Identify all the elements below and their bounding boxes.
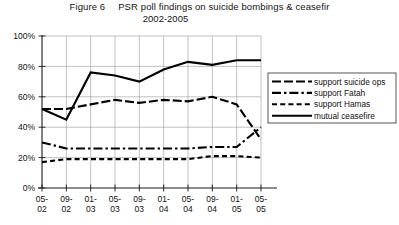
data-series-group: [42, 60, 261, 162]
figure-container: Figure 6PSR poll findings on suicide bom…: [0, 0, 399, 225]
x-axis-tick-label: 09-: [60, 194, 72, 204]
x-axis-tick-label: 01-: [231, 194, 243, 204]
x-axis-tick-label: 09-: [133, 194, 145, 204]
line-chart: 0%20%40%60%80%100% 05-0209-0201-0305-030…: [0, 0, 399, 225]
y-axis-tick-label: 40%: [18, 122, 35, 132]
chart-legend: support suicide opssupport Fatahsupport …: [268, 73, 396, 123]
x-axis-tick-label: 05-: [255, 194, 267, 204]
x-axis-tick-label: 03: [86, 204, 96, 214]
x-axis-tick-label: 02: [37, 204, 47, 214]
x-axis-tick-label: 05: [256, 204, 266, 214]
x-axis-tick-label: 09-: [206, 194, 218, 204]
x-axis-tick-label: 05-: [109, 194, 121, 204]
y-axis-tick-label: 60%: [18, 92, 35, 102]
y-axis-tick-labels: 0%20%40%60%80%100%: [13, 31, 35, 193]
axes: [38, 35, 277, 192]
x-axis-tick-label: 04: [159, 204, 169, 214]
series-line-support-hamas: [42, 156, 261, 162]
y-axis-tick-label: 20%: [18, 153, 35, 163]
y-axis-tick-label: 80%: [18, 62, 35, 72]
legend-label-mutual-ceasefire: mutual ceasefire: [314, 111, 375, 121]
series-line-mutual-ceasefire: [42, 60, 261, 119]
x-axis-tick-label: 02: [62, 204, 72, 214]
legend-label-support-suicide-ops: support suicide ops: [314, 77, 386, 87]
x-axis-tick-label: 03: [135, 204, 145, 214]
y-axis-tick-label: 0%: [23, 183, 36, 193]
legend-label-support-hamas: support Hamas: [314, 99, 370, 109]
x-axis-tick-label: 01-: [85, 194, 97, 204]
x-axis-tick-label: 05-: [182, 194, 194, 204]
y-axis-tick-label: 100%: [13, 31, 35, 41]
x-axis-tick-label: 03: [110, 204, 120, 214]
legend-label-support-fatah: support Fatah: [314, 88, 366, 98]
x-axis-tick-label: 05: [232, 204, 242, 214]
x-axis-tick-label: 04: [208, 204, 218, 214]
x-axis-tick-label: 05-: [36, 194, 48, 204]
x-axis-tick-label: 01-: [158, 194, 170, 204]
series-line-support-fatah: [42, 127, 261, 148]
grid-lines: [42, 36, 261, 188]
x-axis-tick-labels: 05-0209-0201-0305-0309-0301-0405-0409-04…: [36, 194, 267, 214]
x-axis-tick-label: 04: [183, 204, 193, 214]
